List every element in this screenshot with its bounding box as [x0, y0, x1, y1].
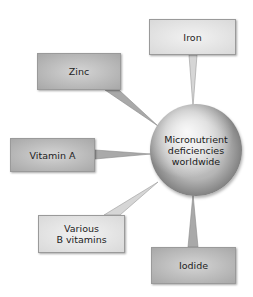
- connector-iron: [189, 55, 197, 107]
- connector-iodide: [188, 194, 198, 247]
- node-various-b-line1: Various: [64, 223, 99, 234]
- node-various-b-vitamins: Various B vitamins: [38, 215, 125, 253]
- connector-zinc: [105, 90, 158, 126]
- center-line-1: Micronutrient: [164, 134, 227, 145]
- node-iron-label: Iron: [183, 32, 201, 43]
- connector-vitamin-a: [95, 150, 151, 159]
- node-zinc: Zinc: [37, 53, 121, 90]
- diagram: Iron Zinc Vitamin A Various B vitamins I…: [0, 0, 253, 297]
- node-vitamin-a: Vitamin A: [10, 138, 95, 172]
- center-line-3: worldwide: [164, 156, 227, 167]
- node-iron: Iron: [149, 19, 236, 55]
- connector-various-b: [104, 182, 158, 215]
- node-various-b-line2: B vitamins: [56, 234, 106, 245]
- globe-icon: Micronutrient deficiencies worldwide: [150, 104, 242, 196]
- node-iodide: Iodide: [151, 247, 236, 284]
- node-iodide-label: Iodide: [179, 260, 208, 271]
- center-label: Micronutrient deficiencies worldwide: [164, 134, 227, 167]
- node-vitamin-a-label: Vitamin A: [30, 150, 76, 161]
- node-zinc-label: Zinc: [69, 66, 89, 77]
- center-line-2: deficiencies: [164, 145, 227, 156]
